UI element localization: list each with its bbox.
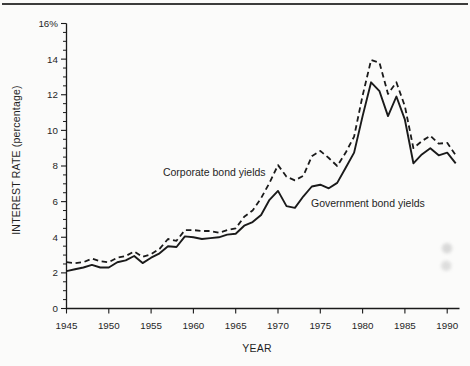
- y-tick-label: 2: [53, 267, 58, 278]
- y-tick-label: 0: [53, 303, 59, 314]
- x-tick-label: 1985: [394, 320, 416, 331]
- corporate-bond-yields-label: Corporate bond yields: [163, 166, 266, 178]
- interest-rate-chart: 0246810121416%19451950195519601965197019…: [0, 0, 470, 366]
- government-bond-yields-label: Government bond yields: [311, 197, 425, 209]
- y-tick-label: 8: [53, 160, 59, 171]
- y-tick-label: 14: [47, 54, 58, 65]
- figure-page: 0246810121416%19451950195519601965197019…: [0, 0, 470, 366]
- corporate-bond-yields-line: [67, 60, 456, 263]
- x-tick-label: 1970: [267, 320, 289, 331]
- y-tick-label: 12: [47, 89, 58, 100]
- scan-artifact: [439, 241, 455, 274]
- y-tick-label: 4: [53, 232, 59, 243]
- y-axis-title: INTEREST RATE (percentage): [10, 85, 22, 235]
- x-axis-title: YEAR: [242, 342, 272, 354]
- x-tick-label: 1965: [225, 320, 247, 331]
- plot-generated: 0246810121416%19451950195519601965197019…: [38, 18, 459, 331]
- x-tick-label: 1955: [140, 320, 162, 331]
- y-tick-label: 10: [47, 125, 58, 136]
- x-tick-label: 1950: [98, 320, 120, 331]
- y-tick-label: 6: [53, 196, 59, 207]
- x-tick-label: 1945: [56, 320, 78, 331]
- x-tick-label: 1990: [436, 320, 458, 331]
- y-tick-label: 16%: [38, 18, 58, 29]
- x-tick-label: 1975: [309, 320, 331, 331]
- x-tick-label: 1980: [352, 320, 374, 331]
- x-tick-label: 1960: [183, 320, 205, 331]
